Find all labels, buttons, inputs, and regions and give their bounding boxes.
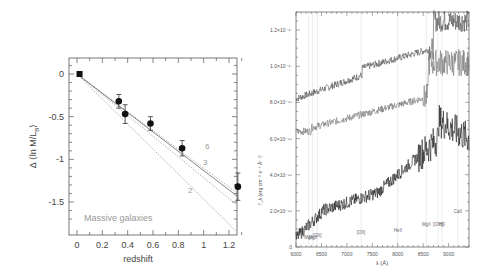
spectral-line-label: Hβ: [439, 222, 445, 227]
right-x-tick-label: 7500: [367, 251, 378, 257]
left-x-tick-label: 0.8: [172, 240, 185, 250]
right-x-tick-label: 6500: [316, 251, 327, 257]
left-x-tick-label: 0: [74, 240, 79, 250]
right-x-tick-label: 9000: [443, 251, 454, 257]
spectrum-bottom: [296, 105, 469, 239]
spectral-line-label: [OII]: [357, 230, 366, 235]
left-y-tick-label: -1: [56, 154, 64, 164]
line-label-6: 6: [205, 142, 210, 151]
line-6: [77, 74, 237, 205]
right-y-tick-label: 8.0×10⁻¹⁸: [270, 99, 292, 105]
spectral-line-label: MgII: [422, 222, 431, 227]
right-y-axis-label: f_λ (erg cm⁻² s⁻¹ Å⁻¹): [257, 155, 263, 205]
left-y-tick-label: -1.5: [48, 197, 64, 207]
right-x-tick-label: 8000: [392, 251, 403, 257]
right-y-tick-label: 4.0×10⁻¹⁸: [270, 172, 292, 178]
spectral-line-label: CaII: [454, 209, 462, 214]
left-plot: 00.20.40.60.811.20-0.5-1-1.5 6 3 2 Massi…: [28, 58, 242, 264]
data-point: [147, 120, 154, 127]
data-point: [116, 98, 123, 105]
left-plot-frame: [69, 58, 237, 235]
left-x-tick-label: 0.6: [147, 240, 160, 250]
left-x-tick-label: 0.4: [121, 240, 134, 250]
spectral-line-label: HeII: [394, 228, 402, 233]
right-x-tick-label: 8500: [418, 251, 429, 257]
right-y-tick-label: 0: [289, 244, 292, 250]
data-point: [77, 71, 83, 77]
annotation-massive-galaxies: Massive galaxies: [84, 213, 153, 223]
left-x-axis-label: redshift: [123, 254, 153, 264]
left-y-tick-label: -0.5: [48, 112, 64, 122]
right-plot: 600065007000750080008500900002.0×10⁻¹⁸4.…: [257, 10, 469, 266]
data-point: [235, 183, 242, 190]
left-x-tick-label: 0.2: [96, 240, 109, 250]
right-y-tick-label: 2.0×10⁻¹⁸: [270, 208, 292, 214]
figure: 00.20.40.60.811.20-0.5-1-1.5 6 3 2 Massi…: [0, 0, 491, 276]
spectral-line-label: [OII]: [313, 233, 322, 238]
left-x-tick-label: 1.2: [223, 240, 236, 250]
right-y-tick-label: 1.2×10⁻¹⁷: [270, 27, 292, 33]
line-2: [77, 74, 237, 232]
left-y-tick-label: 0: [59, 69, 64, 79]
right-x-tick-label: 6000: [290, 251, 301, 257]
line-label-3: 3: [203, 158, 208, 167]
right-y-tick-label: 6.0×10⁻¹⁸: [270, 136, 292, 142]
right-x-axis-label: λ (Å): [376, 260, 389, 266]
left-y-axis-label: Δ ⟨ln M/LB⟩: [28, 124, 40, 169]
right-y-tick-label: 1.0×10⁻¹⁷: [270, 63, 292, 69]
spectrum-top: [296, 10, 469, 101]
data-point: [179, 145, 186, 152]
line-fit: [77, 74, 237, 196]
left-x-tick-label: 1: [201, 240, 206, 250]
data-point: [122, 111, 129, 118]
line-label-2: 2: [188, 186, 193, 195]
right-x-tick-label: 7000: [341, 251, 352, 257]
